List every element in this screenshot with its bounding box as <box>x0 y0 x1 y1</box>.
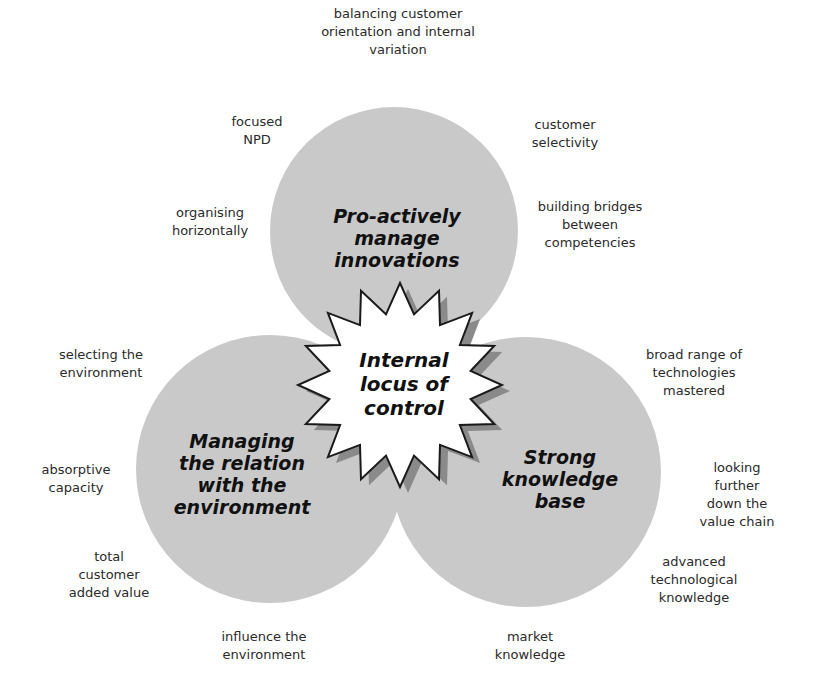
circle-left-title: Managing the relation with the environme… <box>174 430 311 518</box>
annotation-customer-selectivity: customer selectivity <box>532 116 598 152</box>
annotation-absorptive-capacity: absorptive capacity <box>42 461 111 497</box>
annotation-market-knowledge: market knowledge <box>495 628 565 664</box>
annotation-broad-range-technologies: broad range of technologies mastered <box>646 346 742 400</box>
circle-right-title: Strong knowledge base <box>502 446 618 512</box>
annotation-focused-npd: focused NPD <box>232 113 283 149</box>
annotation-looking-further-value-chain: looking further down the value chain <box>690 459 785 531</box>
annotation-influence-environment: influence the environment <box>221 628 306 664</box>
annotation-total-customer-added-value: total customer added value <box>69 548 149 602</box>
annotation-building-bridges: building bridges between competencies <box>538 198 643 252</box>
annotation-selecting-environment: selecting the environment <box>59 346 143 382</box>
annotation-advanced-technological-knowledge: advanced technological knowledge <box>651 553 738 607</box>
annotation-balancing-customer-orientation: balancing customer orientation and inter… <box>321 5 475 59</box>
center-title: Internal locus of control <box>359 348 448 420</box>
circle-top-title: Pro-actively manage innovations <box>333 205 461 271</box>
annotation-organising-horizontally: organising horizontally <box>172 204 248 240</box>
diagram-canvas: Pro-actively manage innovations Managing… <box>0 0 832 696</box>
